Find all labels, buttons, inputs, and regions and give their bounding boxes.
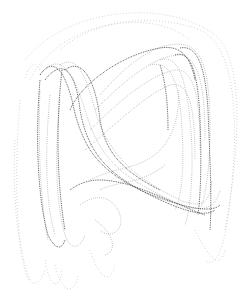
dense-bands: [38, 47, 220, 246]
middle-sweeps: [39, 44, 220, 255]
outer-faint-loops: [14, 13, 237, 289]
attractor-drawing: [0, 0, 242, 297]
